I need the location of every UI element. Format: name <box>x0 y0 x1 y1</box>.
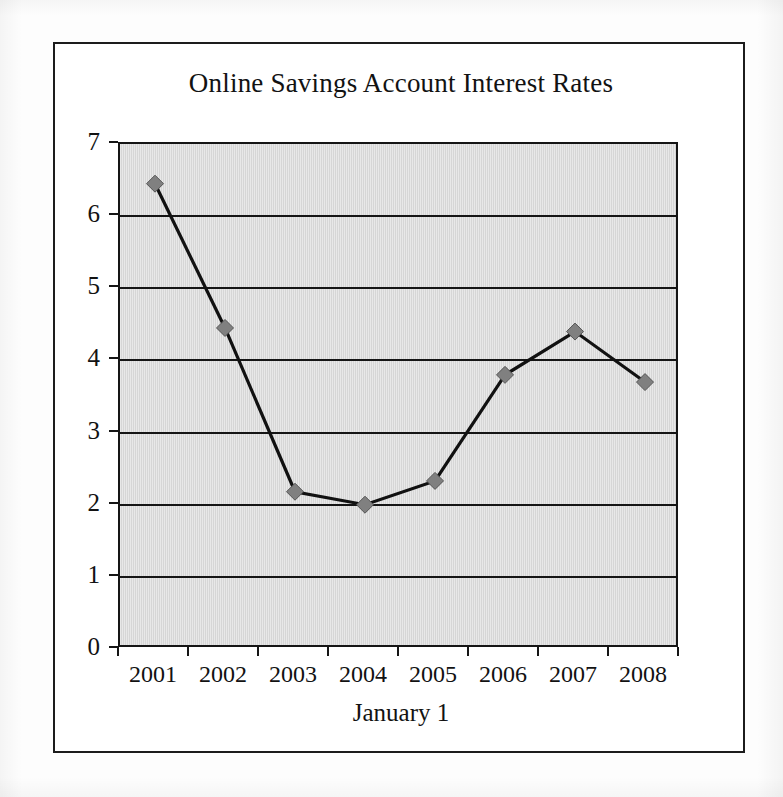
y-tick-mark <box>109 285 118 287</box>
figure-frame: Online Savings Account Interest Rates 01… <box>53 42 745 753</box>
y-tick-label: 6 <box>60 200 100 228</box>
x-tick-label: 2005 <box>409 661 457 688</box>
x-tick-label: 2001 <box>129 661 177 688</box>
x-tick-label: 2002 <box>199 661 247 688</box>
y-tick-mark <box>109 213 118 215</box>
data-point-marker <box>497 366 514 383</box>
x-axis-title: January 1 <box>55 699 747 727</box>
series-polyline <box>155 184 645 505</box>
y-tick-label: 5 <box>60 272 100 300</box>
x-tick-mark <box>607 647 609 656</box>
data-point-marker <box>287 483 304 500</box>
y-tick-label: 4 <box>60 344 100 372</box>
y-tick-label: 0 <box>60 633 100 661</box>
x-tick-mark <box>117 647 119 656</box>
chart-title: Online Savings Account Interest Rates <box>55 68 747 99</box>
y-tick-label: 1 <box>60 561 100 589</box>
y-tick-mark <box>109 502 118 504</box>
x-tick-mark <box>187 647 189 656</box>
x-tick-mark <box>327 647 329 656</box>
data-point-marker <box>357 496 374 513</box>
data-point-marker <box>217 319 234 336</box>
x-tick-mark <box>397 647 399 656</box>
y-tick-label: 2 <box>60 489 100 517</box>
x-tick-label: 2007 <box>549 661 597 688</box>
x-tick-mark <box>257 647 259 656</box>
x-tick-mark <box>677 647 679 656</box>
y-tick-mark <box>109 574 118 576</box>
plot-area <box>118 142 678 647</box>
y-tick-label: 3 <box>60 417 100 445</box>
x-tick-label: 2008 <box>619 661 667 688</box>
y-tick-mark <box>109 357 118 359</box>
x-tick-mark <box>467 647 469 656</box>
x-tick-label: 2004 <box>339 661 387 688</box>
data-point-marker <box>147 175 164 192</box>
data-series-line <box>120 144 680 649</box>
y-tick-label: 7 <box>60 128 100 156</box>
y-tick-mark <box>109 430 118 432</box>
x-tick-label: 2003 <box>269 661 317 688</box>
scanned-page: Online Savings Account Interest Rates 01… <box>0 0 783 797</box>
x-tick-mark <box>537 647 539 656</box>
y-tick-mark <box>109 141 118 143</box>
data-point-marker <box>427 472 444 489</box>
x-tick-label: 2006 <box>479 661 527 688</box>
